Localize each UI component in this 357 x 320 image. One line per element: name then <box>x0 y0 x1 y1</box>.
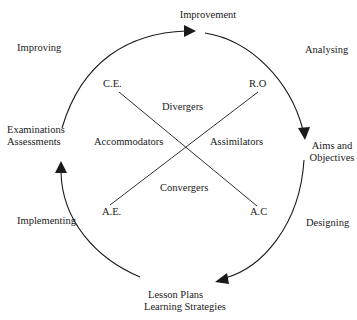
style-convergers: Convergers <box>160 182 208 194</box>
arrowhead-exams-icon <box>55 161 67 173</box>
arc-improving <box>62 31 186 128</box>
style-assimilators: Assimilators <box>210 136 263 148</box>
stage-aims-line1: Aims and <box>304 140 357 152</box>
arrowhead-improvement-icon <box>184 25 196 37</box>
axis-label-ae: A.E. <box>102 206 121 218</box>
stage-aims-line2: Objectives <box>304 152 357 164</box>
stage-exams-line2: Assessments <box>7 136 65 148</box>
arc-designing <box>225 160 304 278</box>
phase-implementing: Implementing <box>17 215 76 227</box>
phase-analysing: Analysing <box>305 44 348 56</box>
stage-exams: Examinations Assessments <box>7 124 65 148</box>
axis-label-ro: R.O <box>249 78 266 90</box>
style-divergers: Divergers <box>162 101 203 113</box>
stage-exams-line1: Examinations <box>7 124 65 136</box>
axis-label-ce: C.E. <box>103 78 122 90</box>
stage-lesson-line2: Learning Strategies <box>144 301 226 313</box>
arrowhead-aims-icon <box>298 127 310 140</box>
stage-lesson-line1: Lesson Plans <box>148 289 226 301</box>
phase-designing: Designing <box>306 217 349 229</box>
stage-improvement: Improvement <box>163 9 253 21</box>
stage-lesson: Lesson Plans Learning Strategies <box>148 289 226 313</box>
style-accommodators: Accommodators <box>94 136 163 148</box>
arrowhead-lesson-icon <box>215 273 229 284</box>
axis-label-ac: A.C <box>250 206 267 218</box>
stage-aims: Aims and Objectives <box>304 140 357 164</box>
phase-improving: Improving <box>17 42 61 54</box>
